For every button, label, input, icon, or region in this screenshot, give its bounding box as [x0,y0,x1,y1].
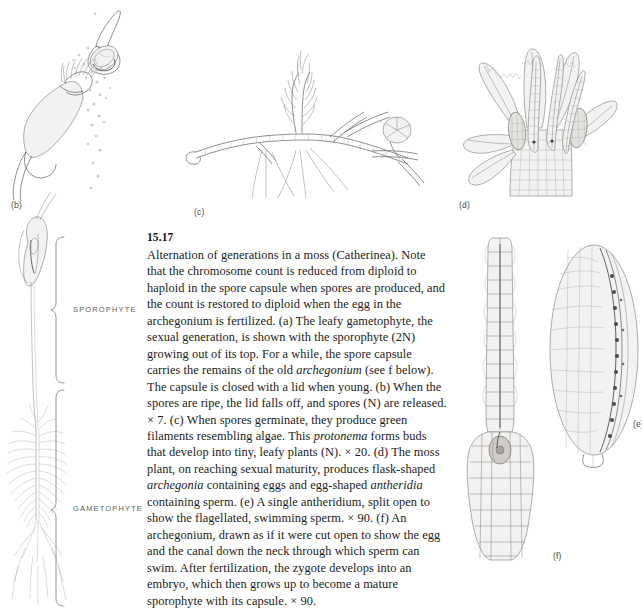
gametophyte-rhizoids [12,520,66,604]
archegonium-neck [483,238,517,432]
figure-number: 15.17 [147,231,447,243]
venter-cells [469,432,533,560]
caption-run: Alternation of generations in a moss (Ca… [147,248,445,377]
panel-b-artwork [13,11,122,201]
bracket-label-gametophyte: GAMETOPHYTE [73,504,143,513]
rhizoids [252,148,348,198]
panel-d-artwork [463,49,617,196]
bracket-label-sporophyte: SPOROPHYTE [73,305,137,314]
sporophyte-bracket [51,237,64,383]
leafy-gametophyte [6,404,68,604]
caption-italic-term: archegonium [296,363,362,377]
leafy-bud [281,50,317,133]
moss-leaves [463,49,617,185]
gametophyte-bracket [51,390,64,606]
protonema-bud [383,117,411,157]
protonema-filaments [186,112,424,186]
gametophyte-leaves [6,404,68,527]
peristome-teeth [61,58,102,84]
figure-caption-text: Alternation of generations in a moss (Ca… [147,247,447,609]
capsule-lid [85,11,122,76]
caption-italic-term: archegonia [147,478,204,492]
antheridia [507,107,589,151]
caption-run: containing sperm. (e) A single antheridi… [147,495,440,608]
moss-stem-base [510,130,572,196]
panel-f-artwork [467,238,534,560]
caption-run: containing eggs and egg-shaped [204,478,371,492]
archegonia [528,55,585,154]
panel-c-artwork [186,50,424,198]
panel-label-e: (e) [633,419,642,429]
figure-caption-block: 15.17 Alternation of generations in a mo… [147,231,447,609]
caption-italic-term: antheridia [370,478,422,492]
panel-label-b: (b) [11,200,22,210]
panel-label-d: (d) [459,200,470,210]
panel-label-c: (c) [194,207,205,217]
sperm-mass [608,274,624,438]
jacket-cells [551,246,605,453]
archegonium-venter [467,432,534,560]
panel-label-f: (f) [553,551,562,561]
sporophyte-seta [31,282,38,430]
released-spores [72,13,111,190]
spore-capsule [13,58,102,201]
sporophyte-capsule [19,192,56,286]
neck-cell-walls [486,252,514,419]
panel-e-artwork [550,245,638,468]
antheridium-body [550,245,638,468]
stem-cells [510,130,572,196]
panel-a-artwork [6,192,68,606]
caption-italic-term: protonema [314,429,368,443]
